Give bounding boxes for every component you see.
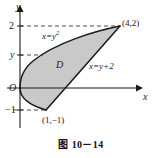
parabola-equation-label: x=y2	[42, 30, 59, 41]
figure-caption: 图 10－14	[0, 136, 162, 151]
x-axis-arrow-icon	[136, 84, 143, 91]
parabola-equation-exponent: 2	[56, 29, 59, 36]
parabola-equation-base: x=y	[42, 31, 56, 41]
x-axis-label: x	[143, 92, 147, 102]
line-equation-label: x=y+2	[89, 62, 114, 71]
y-tick-label-2: 2	[9, 21, 14, 31]
plot-area: y x O 2 y −1 x=y2 x=y+2 (4,2) (1,−1) D	[0, 0, 162, 134]
y-tick-label-y: y	[10, 50, 14, 60]
point-label-lower-left: (1,−1)	[42, 116, 64, 125]
y-axis-label: y	[16, 2, 20, 12]
point-label-upper-right: (4,2)	[122, 19, 139, 28]
y-tick-label-minus-1: −1	[5, 105, 16, 115]
region-label-d: D	[56, 60, 63, 70]
origin-label: O	[9, 83, 16, 93]
figure-container: y x O 2 y −1 x=y2 x=y+2 (4,2) (1,−1) D 图…	[0, 0, 162, 158]
